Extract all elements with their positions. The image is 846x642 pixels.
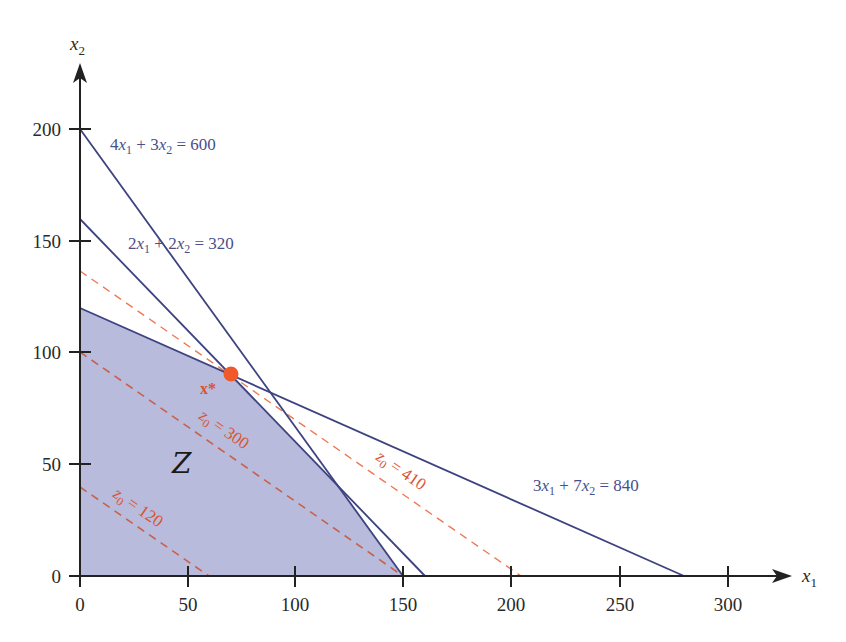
optimal-point [224,367,239,382]
x-tick-label: 0 [75,594,85,615]
y-tick-label: 0 [52,566,62,587]
y-tick-label: 50 [42,454,61,475]
x-tick-label: 100 [281,594,310,615]
lp-chart: 0 50 100 150 200 250 300 0 50 100 150 20… [0,0,846,642]
feasible-region-label: Z [171,447,192,480]
x-tick-label: 300 [714,594,743,615]
y-tick-label: 150 [33,231,62,252]
x-tick-label: 50 [179,594,198,615]
x-tick-label: 150 [389,594,418,615]
y-tick-label: 200 [33,119,62,140]
y-axis-label: x2 [69,33,85,58]
constraint-label-4x1-3x2-600: 4x1 + 3x2 = 600 [110,135,216,157]
constraint-label-2x1-2x2-320: 2x1 + 2x2 = 320 [128,234,234,256]
y-tick-label: 100 [33,342,62,363]
x-tick-label: 250 [606,594,635,615]
objective-label-410: z0 = 410 [370,446,430,497]
x-axis-label: x1 [801,565,817,590]
x-tick-label: 200 [497,594,526,615]
optimal-point-label: x* [200,380,216,397]
constraint-label-3x1-7x2-840: 3x1 + 7x2 = 840 [533,476,639,498]
